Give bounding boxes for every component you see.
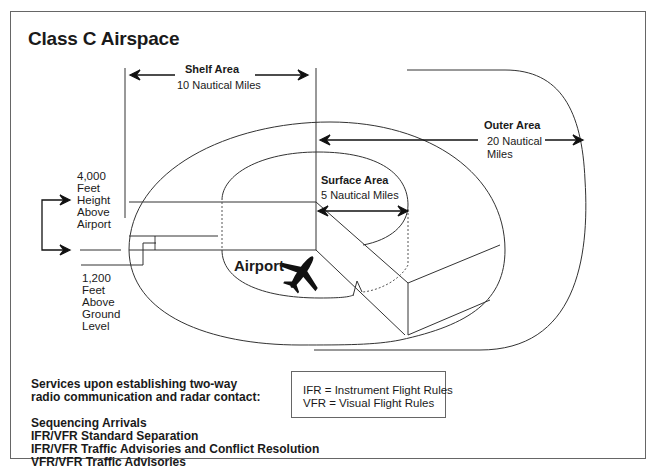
- legend-ifr: IFR = Instrument Flight Rules: [303, 384, 453, 396]
- floor-label: 1,200 Feet Above Ground Level: [82, 272, 120, 332]
- shelf-area-distance: 10 Nautical Miles: [177, 79, 261, 91]
- shelf-area-label: Shelf Area: [185, 63, 239, 75]
- services-heading-2: radio communication and radar contact:: [31, 391, 319, 404]
- airport-label: Airport: [234, 257, 284, 274]
- outer-area-boundary: [314, 70, 586, 350]
- services-list: Services upon establishing two-way radio…: [31, 378, 319, 469]
- outer-area-label: Outer Area: [484, 119, 540, 131]
- surface-area-label: Surface Area: [321, 174, 388, 186]
- outer-area-distance-2: Miles: [487, 148, 513, 160]
- service-item: VFR/VFR Traffic Advisories: [31, 456, 319, 469]
- ceiling-label: 4,000 Feet Height Above Airport: [77, 170, 111, 230]
- shelf-boundary-top: [129, 122, 505, 340]
- legend-vfr: VFR = Visual Flight Rules: [303, 397, 434, 409]
- surface-area-distance: 5 Nautical Miles: [321, 189, 399, 201]
- legend-box: IFR = Instrument Flight Rules VFR = Visu…: [291, 371, 446, 418]
- outer-area-distance-1: 20 Nautical: [487, 135, 542, 147]
